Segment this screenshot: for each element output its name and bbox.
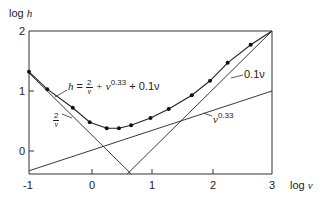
label-nu-0-33: ν0.33	[213, 112, 233, 125]
data-point	[167, 107, 171, 111]
y-tick-1: 1	[19, 86, 25, 97]
data-point	[129, 123, 133, 127]
data-point	[71, 106, 75, 110]
x-tick-0: 0	[89, 180, 95, 191]
x-tick--1: -1	[23, 180, 33, 191]
x-tick-3: 3	[269, 180, 275, 191]
chart-canvas	[0, 0, 321, 197]
series-layer	[27, 31, 272, 174]
data-point	[117, 126, 121, 130]
data-point	[190, 93, 194, 97]
series-line-2	[127, 31, 272, 174]
data-point	[149, 116, 153, 120]
y-tick-0: 0	[19, 146, 25, 157]
label-0-1-nu: 0.1ν	[244, 69, 265, 80]
x-axis-label: log ν	[290, 180, 313, 191]
formula-annotation: h = 2ν + ν0.33 + 0.1ν	[68, 79, 160, 96]
data-point	[88, 120, 92, 124]
data-point	[249, 43, 253, 47]
data-point	[226, 61, 230, 65]
x-tick-2: 2	[210, 180, 216, 191]
data-point	[105, 126, 109, 130]
data-point	[208, 79, 212, 83]
label-2-over-nu: 2ν	[53, 112, 59, 129]
x-tick-1: 1	[149, 180, 155, 191]
y-axis-label: log h	[9, 8, 32, 19]
y-tick-2: 2	[19, 26, 25, 37]
